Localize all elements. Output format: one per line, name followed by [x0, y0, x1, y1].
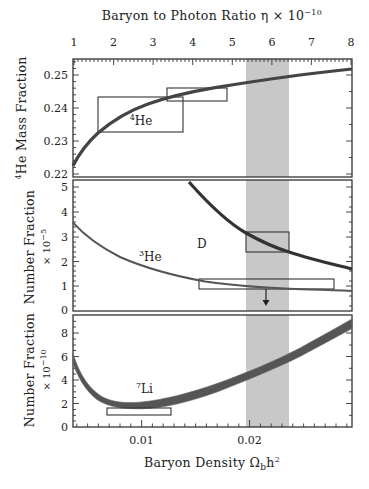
y-tick-label: 0.23: [44, 135, 69, 148]
he4-label: 4He: [130, 113, 153, 128]
panel-li7-frame: [73, 315, 352, 427]
panel-d-he3-frame: [73, 180, 352, 311]
x-tick-label: 0.01: [129, 434, 154, 447]
bottom-axis-ticks: [77, 420, 347, 427]
panel-he4-y-ticks: [73, 62, 352, 174]
li7-band: [73, 319, 352, 409]
panel-d-he3-y-label: Number Fraction: [22, 190, 37, 304]
y-tick-label: 5: [61, 181, 68, 194]
top-tick-label: 1: [71, 36, 78, 49]
panel-he4-y-label: 4He Mass Fraction: [14, 56, 29, 179]
panel-li7-y-label: Number Fraction: [22, 313, 37, 427]
y-tick-label: 0: [61, 304, 68, 317]
li7-label: 7Li: [136, 381, 153, 396]
top-tick-label: 6: [268, 36, 275, 49]
y-tick-label: 0: [61, 421, 68, 434]
top-tick-label: 7: [308, 36, 315, 49]
top-tick-label: 4: [189, 36, 196, 49]
y-tick-label: 3: [61, 231, 68, 244]
top-axis-title: Baryon to Photon Ratio η × 10−10: [102, 8, 322, 23]
y-tick-label: 6: [61, 351, 68, 364]
top-tick-label: 5: [229, 36, 236, 49]
panel-he4: 0.25 0.24 0.23 0.22 4He Mass Fraction 4H…: [14, 56, 352, 181]
y-tick-label: 1: [61, 280, 68, 293]
panel-li7: 8 6 4 2 0 Number Fraction × 10−10 7Li: [22, 313, 352, 434]
top-axis-tick-labels: 1 2 3 4 5 6 7 8: [71, 36, 355, 49]
y-tick-label: 0.22: [44, 168, 69, 181]
panel-he4-frame: [73, 59, 352, 177]
top-axis-ticks: [74, 59, 351, 65]
top-tick-label: 2: [110, 36, 117, 49]
y-tick-label: 8: [61, 327, 68, 340]
y-tick-label: 4: [61, 206, 68, 219]
x-tick-label: 0.02: [237, 434, 262, 447]
y-tick-label: 2: [61, 398, 68, 411]
panel-li7-y-scale: × 10−10: [39, 349, 52, 390]
y-tick-label: 0.24: [44, 102, 69, 115]
y-tick-label: 2: [61, 256, 68, 269]
he3-label: 3He: [139, 249, 162, 264]
he4-curve: [73, 69, 352, 166]
y-tick-label: 4: [61, 374, 68, 387]
bbn-abundance-chart: Baryon to Photon Ratio η × 10−10 1 2 3 4…: [0, 0, 369, 489]
panel-d-he3-y-scale: × 10−5: [39, 229, 52, 265]
top-tick-label: 8: [348, 36, 355, 49]
y-tick-label: 0.25: [44, 69, 69, 82]
d-label: D: [197, 237, 207, 251]
panel-d-he3: 5 4 3 2 1 0 Number Fraction × 10−5 D 3He: [22, 180, 352, 317]
top-tick-label: 3: [150, 36, 157, 49]
bottom-axis-title: Baryon Density Ωbh2: [144, 455, 280, 472]
